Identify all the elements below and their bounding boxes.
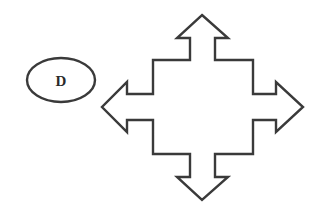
ellipse-label: D <box>56 73 67 89</box>
ellipse-node: D <box>27 58 95 102</box>
four-way-arrow-icon <box>102 15 303 200</box>
diagram-canvas: D <box>0 0 322 208</box>
